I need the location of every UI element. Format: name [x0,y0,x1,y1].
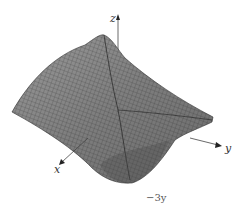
x-axis-label: x [54,164,60,175]
z-axis-arrow-icon [116,14,120,20]
y-axis-label: y [225,143,231,154]
caption-fragment: −3y [146,192,166,203]
surface [12,35,213,183]
z-axis-label: z [110,13,116,24]
y-axis-arrow-icon [215,142,222,148]
surface-plot [0,0,238,203]
y-axis [190,138,218,145]
